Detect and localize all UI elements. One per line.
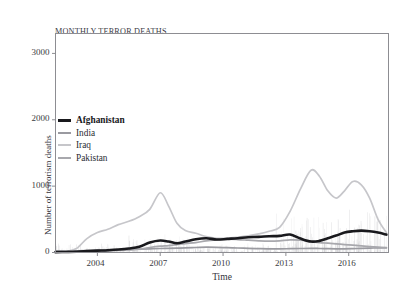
legend-item-pakistan[interactable]: Pakistan — [58, 152, 125, 165]
legend-item-iraq[interactable]: Iraq — [58, 139, 125, 152]
y-tick-label: 3000 — [32, 47, 50, 57]
legend-item-label: India — [76, 127, 95, 140]
chart-legend: AfghanistanIndiaIraqPakistan — [58, 114, 125, 164]
x-tick-label: 2013 — [275, 258, 293, 268]
y-tick-label: 1000 — [32, 180, 50, 190]
legend-item-label: Pakistan — [76, 152, 108, 165]
y-tick-label: 2000 — [32, 113, 50, 123]
legend-item-india[interactable]: India — [58, 127, 125, 140]
x-tick-label: 2004 — [86, 258, 104, 268]
legend-line-swatch-icon — [58, 132, 71, 134]
legend-item-afghanistan[interactable]: Afghanistan — [58, 114, 125, 127]
legend-item-label: Iraq — [76, 139, 91, 152]
x-tick-label: 2010 — [212, 258, 230, 268]
x-axis-label: Time — [55, 272, 389, 282]
legend-item-label: Afghanistan — [76, 114, 125, 127]
y-tick-label: 0 — [45, 246, 50, 256]
legend-line-swatch-icon — [58, 119, 71, 122]
x-tick-label: 2016 — [338, 258, 356, 268]
chart-figure: MONTHLY TERROR DEATHS BY COUNTRY (TOP 4 … — [0, 0, 408, 299]
legend-line-swatch-icon — [58, 157, 71, 159]
y-axis-label-wrap: Number of terrorism deaths — [14, 60, 30, 240]
x-tick-label: 2007 — [149, 258, 167, 268]
legend-line-swatch-icon — [58, 144, 71, 146]
